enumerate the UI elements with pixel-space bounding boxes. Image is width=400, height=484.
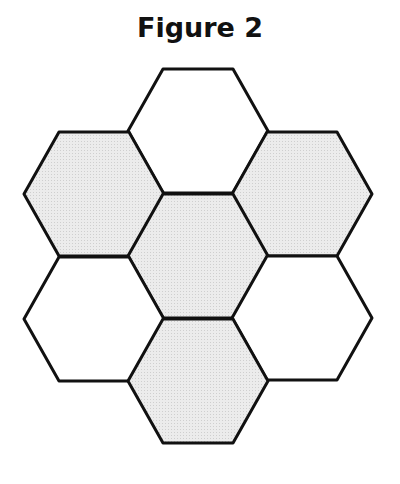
hexagon-figure (0, 0, 400, 484)
